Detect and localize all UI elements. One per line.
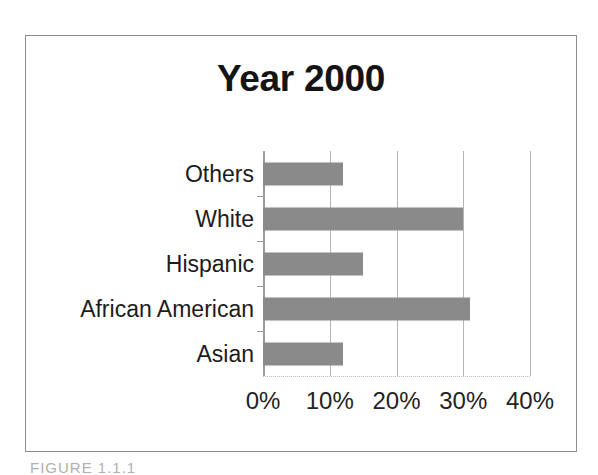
chart-baseline: [263, 376, 530, 377]
category-axis-tick: [257, 331, 263, 332]
category-label: Hispanic: [166, 250, 254, 277]
category-axis-tick: [257, 286, 263, 287]
x-tick-label: 40%: [506, 387, 554, 415]
category-label: African American: [80, 295, 254, 322]
bar-row: White: [263, 196, 530, 241]
category-axis-tick: [257, 196, 263, 197]
bar: [263, 297, 470, 320]
bar-row: African American: [263, 286, 530, 331]
category-label: Others: [185, 160, 254, 187]
category-label: White: [195, 205, 254, 232]
x-tick-label: 0%: [246, 387, 281, 415]
bar: [263, 342, 343, 365]
x-tick-label: 10%: [306, 387, 354, 415]
bar-row: Hispanic: [263, 241, 530, 286]
category-axis-tick: [257, 241, 263, 242]
x-tick-label: 20%: [372, 387, 420, 415]
bar: [263, 162, 343, 185]
category-label: Asian: [196, 340, 254, 367]
bar-row: Asian: [263, 331, 530, 376]
chart-title: Year 2000: [26, 58, 576, 100]
bar: [263, 207, 463, 230]
bar-row: Others: [263, 151, 530, 196]
x-tick-label: 30%: [439, 387, 487, 415]
figure-frame: Year 2000 OthersWhiteHispanicAfrican Ame…: [25, 35, 577, 452]
gridline-40: [530, 151, 531, 376]
figure-caption: FIGURE 1.1.1: [30, 459, 136, 475]
bar-chart-plot-area: OthersWhiteHispanicAfrican AmericanAsian…: [263, 151, 530, 376]
bar: [263, 252, 363, 275]
